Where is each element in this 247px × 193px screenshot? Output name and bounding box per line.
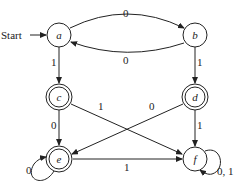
state-d: d [182,84,208,110]
edge-label-a-b: 0 [123,7,129,19]
edge-label-a-c: 1 [51,56,57,68]
edge-label-b-d: 1 [197,56,203,68]
start-label: Start [1,29,22,41]
state-b: b [183,23,207,47]
state-e: e [46,146,72,172]
edge-label-c-f: 1 [98,100,104,112]
state-b-label: b [192,29,198,41]
state-d-label: d [192,91,198,103]
edge-label-d-f: 1 [197,119,203,131]
edge-label-c-e: 0 [51,119,57,131]
state-c-label: c [57,91,62,103]
state-f: f [183,147,207,171]
state-a-label: a [56,29,62,41]
edge-label-e-e: 0 [26,164,32,176]
state-c: c [46,84,72,110]
fsa-diagram: Start 0 0 1 1 0 1 0 1 0 1 0, 1 a b c [0,0,247,193]
edge-label-d-e: 0 [149,100,155,112]
state-a: a [47,23,71,47]
edge-b-a [71,42,184,52]
state-e-label: e [57,153,62,165]
edge-label-f-f: 0, 1 [217,165,234,177]
edge-label-b-a: 0 [123,54,129,66]
edge-label-e-f: 1 [124,161,130,173]
